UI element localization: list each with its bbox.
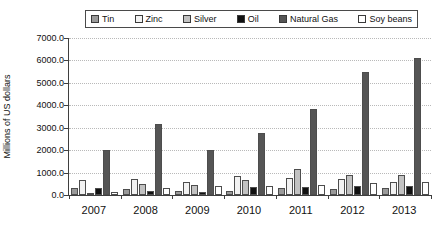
y-axis-tick-label: 0.0 — [18, 191, 64, 200]
bar[interactable] — [215, 186, 222, 195]
chart-legend: TinZincSilverOilNatural GasSoy beans — [85, 10, 418, 28]
bar-group — [121, 38, 173, 195]
bars-layer — [69, 38, 431, 195]
bar[interactable] — [294, 169, 301, 195]
y-axis-tick-label: 1000.0 — [18, 169, 64, 178]
legend-entry[interactable]: Soy beans — [358, 15, 412, 24]
y-axis-ticks: 7000.06000.05000.04000.03000.02000.01000… — [14, 38, 64, 195]
x-axis-tick-mark — [224, 195, 225, 199]
y-axis-tick-label: 6000.0 — [18, 56, 64, 65]
bar-group — [379, 38, 431, 195]
bar[interactable] — [131, 179, 138, 195]
bar-group — [69, 38, 121, 195]
x-axis-tick-mark — [172, 195, 173, 199]
bar[interactable] — [278, 188, 285, 195]
legend-label: Silver — [194, 15, 217, 24]
bar[interactable] — [111, 192, 118, 195]
bar[interactable] — [266, 186, 273, 195]
plot-area — [68, 38, 431, 196]
x-axis-tick-mark — [328, 195, 329, 199]
bar[interactable] — [95, 188, 102, 195]
bar[interactable] — [191, 185, 198, 195]
legend-label: Tin — [102, 15, 114, 24]
bar[interactable] — [71, 188, 78, 195]
bar[interactable] — [286, 178, 293, 195]
legend-swatch-icon — [135, 15, 143, 23]
legend-swatch-icon — [358, 15, 366, 23]
bar-group — [328, 38, 380, 195]
bar[interactable] — [183, 182, 190, 195]
bar[interactable] — [163, 188, 170, 195]
bar[interactable] — [346, 175, 353, 195]
bar-chart: TinZincSilverOilNatural GasSoy beans Mil… — [0, 0, 434, 234]
legend-entry[interactable]: Natural Gas — [279, 15, 338, 24]
bar[interactable] — [155, 124, 162, 195]
bar[interactable] — [103, 150, 110, 195]
legend-swatch-icon — [91, 15, 99, 23]
bar-group — [172, 38, 224, 195]
bar[interactable] — [199, 192, 206, 195]
bar[interactable] — [398, 175, 405, 195]
legend-swatch-icon — [183, 15, 191, 23]
legend-label: Zinc — [146, 15, 163, 24]
bar[interactable] — [147, 191, 154, 195]
bar[interactable] — [258, 133, 265, 195]
legend-entry[interactable]: Silver — [183, 15, 217, 24]
legend-entry[interactable]: Zinc — [135, 15, 163, 24]
bar[interactable] — [422, 182, 429, 195]
legend-label: Oil — [248, 15, 259, 24]
bar[interactable] — [87, 193, 94, 195]
x-axis-tick-mark — [121, 195, 122, 199]
bar[interactable] — [234, 176, 241, 196]
bar[interactable] — [302, 187, 309, 195]
bar[interactable] — [207, 150, 214, 195]
bar[interactable] — [370, 183, 377, 195]
bar[interactable] — [318, 185, 325, 195]
legend-label: Natural Gas — [290, 15, 338, 24]
y-axis-tick-label: 5000.0 — [18, 79, 64, 88]
bar[interactable] — [354, 186, 361, 195]
legend-swatch-icon — [237, 15, 245, 23]
legend-swatch-icon — [279, 15, 287, 23]
bar[interactable] — [330, 189, 337, 195]
legend-label: Soy beans — [369, 15, 412, 24]
bar[interactable] — [310, 109, 317, 195]
bar[interactable] — [382, 188, 389, 195]
bar-group — [224, 38, 276, 195]
bar[interactable] — [390, 182, 397, 195]
y-axis-title: Millions of US dollars — [0, 32, 14, 200]
bar[interactable] — [362, 72, 369, 195]
bar[interactable] — [242, 180, 249, 195]
y-axis-tick-label: 7000.0 — [18, 34, 64, 43]
bar[interactable] — [123, 189, 130, 195]
x-axis-tick-mark — [69, 195, 70, 199]
y-axis-tick-label: 4000.0 — [18, 101, 64, 110]
bar[interactable] — [406, 186, 413, 195]
bar-group — [276, 38, 328, 195]
bar[interactable] — [175, 191, 182, 195]
bar[interactable] — [139, 184, 146, 195]
bar[interactable] — [250, 187, 257, 195]
legend-entry[interactable]: Oil — [237, 15, 259, 24]
x-axis-tick-mark — [431, 195, 432, 199]
bar[interactable] — [414, 58, 421, 195]
bar[interactable] — [338, 179, 345, 195]
bar[interactable] — [79, 180, 86, 195]
x-axis-tick-label: 2013 — [374, 205, 434, 216]
y-axis-title-label: Millions of US dollars — [3, 74, 12, 158]
y-axis-tick-label: 3000.0 — [18, 124, 64, 133]
x-axis-tick-mark — [276, 195, 277, 199]
x-axis-tick-mark — [379, 195, 380, 199]
y-axis-tick-label: 2000.0 — [18, 146, 64, 155]
legend-entry[interactable]: Tin — [91, 15, 114, 24]
bar[interactable] — [226, 191, 233, 195]
